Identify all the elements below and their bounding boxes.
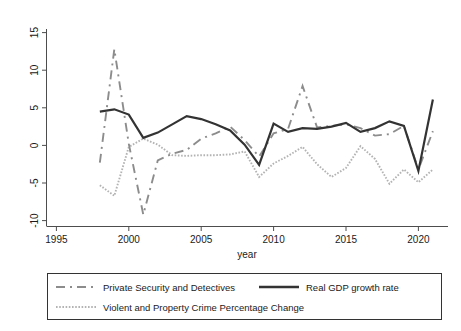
x-tick-label: 2020 <box>407 234 430 245</box>
x-tick-label: 2015 <box>335 234 358 245</box>
x-axis-title: year <box>237 249 257 260</box>
legend-label: Real GDP growth rate <box>306 282 399 293</box>
x-tick-label: 2005 <box>190 234 213 245</box>
x-tick-label: 2000 <box>118 234 141 245</box>
y-tick-label: -5 <box>29 178 40 187</box>
legend-label: Private Security and Detectives <box>103 282 235 293</box>
y-tick-label: 0 <box>29 142 40 148</box>
x-tick-label: 2010 <box>262 234 285 245</box>
line-chart-svg: 15 10 5 0 -5 -10 1995 2000 2005 2010 201… <box>0 0 461 331</box>
legend-label: Violent and Property Crime Percentage Ch… <box>103 302 304 313</box>
x-tick-label: 1995 <box>45 234 68 245</box>
y-tick-label: 15 <box>29 27 40 39</box>
y-tick-label: -10 <box>29 213 40 228</box>
y-tick-label: 10 <box>29 64 40 76</box>
chart-figure: 15 10 5 0 -5 -10 1995 2000 2005 2010 201… <box>0 0 461 331</box>
y-tick-label: 5 <box>29 105 40 111</box>
